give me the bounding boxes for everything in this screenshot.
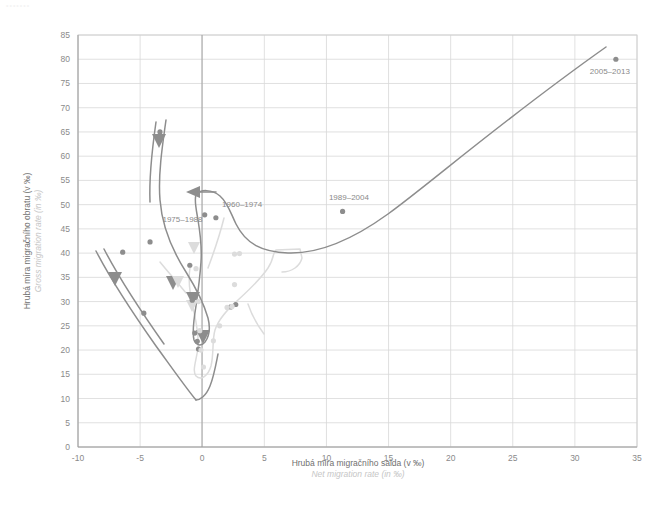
data-point [147,239,152,244]
dark-series-branch-left2 [104,249,164,344]
data-point [197,328,202,333]
x-axis-title-sub: Net migration rate (in ‰) [311,469,404,479]
y-tick-label: 50 [61,200,71,210]
data-point [196,299,201,304]
series-annotation: 1989–2004 [329,193,370,202]
x-tick-label: 25 [508,453,518,463]
dark-series-branch-low [196,354,218,400]
y-tick-label: 25 [61,321,71,331]
y-tick-label: 55 [61,175,71,185]
y-tick-label: 0 [65,442,70,452]
y-tick-label: 30 [61,297,71,307]
plot-border [78,35,637,447]
y-tick-label: 80 [61,54,71,64]
y-tick-label: 70 [61,103,71,113]
x-tick-label: 5 [262,453,267,463]
y-tick-label: 85 [61,30,71,40]
arrow-dark-left [108,272,122,286]
y-tick-label: 35 [61,272,71,282]
y-tick-label: 40 [61,248,71,258]
light-series-branch-a [208,218,224,268]
x-axis-title: Hrubá míra migračního salda (v ‰) [292,458,425,468]
x-tick-label: 0 [200,453,205,463]
data-point [187,263,192,268]
data-point [198,347,203,352]
data-point [224,305,229,310]
data-point [141,311,146,316]
series-annotation: 1975–1988 [162,215,203,224]
data-point [211,338,216,343]
x-tick-label: -10 [72,453,85,463]
arrow-light-upper [188,242,200,254]
data-point [229,304,234,309]
data-point [217,323,222,328]
x-tick-label: 35 [632,453,642,463]
data-point [213,215,218,220]
x-tick-label: 30 [570,453,580,463]
x-tick-label: 20 [446,453,456,463]
dark-series-path [159,47,606,345]
x-tick-label: -5 [136,453,144,463]
data-points [120,57,618,370]
y-tick-label: 20 [61,345,71,355]
plot-frame [78,35,637,447]
data-point [195,339,200,344]
chart-svg: -10-505101520253035 05101520253035404550… [0,0,661,506]
series-annotation: 2005–2013 [590,67,631,76]
data-point [120,250,125,255]
y-tick-label: 45 [61,224,71,234]
annotations: 1960–19741975–19881989–20042005–2013 [162,67,630,224]
y-axis-title-sub: Gross migration rate (in ‰) [33,190,43,293]
data-point [193,266,198,271]
series-annotation: 1960–1974 [222,200,263,209]
y-tick-label: 10 [61,394,71,404]
data-point [190,298,195,303]
grid-lines [78,35,637,447]
y-tick-label: 60 [61,151,71,161]
data-point [613,57,618,62]
data-point [232,282,237,287]
data-point [340,209,345,214]
y-axis-title: Hrubá míra migračního obratu (v ‰) [22,173,32,310]
y-tick-labels: 0510152025303540455055606570758085 [61,30,71,452]
y-tick-label: 65 [61,127,71,137]
data-point [237,251,242,256]
data-point [157,129,162,134]
data-point [192,330,197,335]
y-tick-label: 15 [61,369,71,379]
data-point [201,364,206,369]
light-series-branch-b [248,304,264,334]
data-point [232,251,237,256]
y-tick-label: 5 [65,418,70,428]
data-point [202,212,207,217]
y-tick-label: 75 [61,78,71,88]
migration-trajectory-chart: -10-505101520253035 05101520253035404550… [0,0,661,506]
